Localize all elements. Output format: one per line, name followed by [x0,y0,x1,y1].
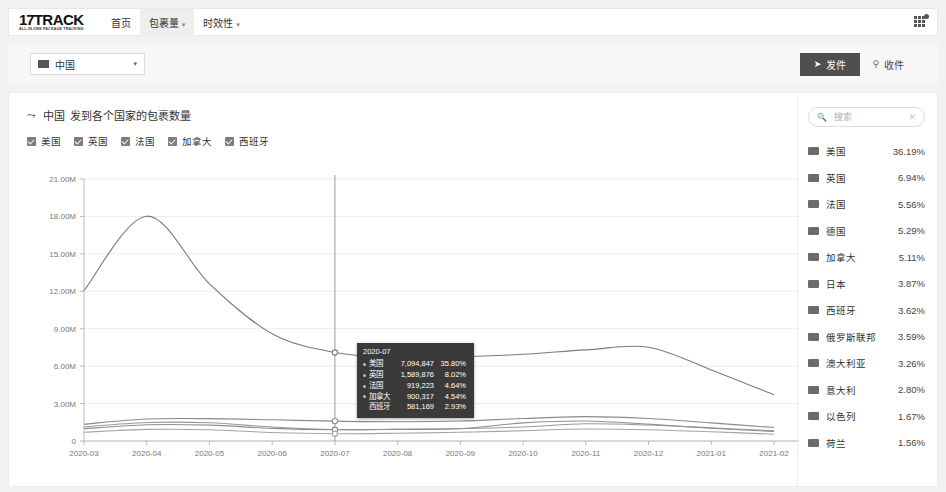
country-rank-row[interactable]: 加拿大5.11% [808,244,925,271]
country-rank-row[interactable]: 意大利2.80% [808,377,925,404]
country-flag-icon [808,412,819,420]
brand-tagline: ALL-IN-ONE PACKAGE TRACKING [19,28,84,32]
country-percent: 5.56% [898,199,925,210]
search-icon: 🔍 [817,113,827,122]
tooltip-series-pct: 4.54% [434,392,466,403]
country-rank-row[interactable]: 俄罗斯联邦3.59% [808,324,925,351]
chart-tooltip: 2020-07 美国7,094,84735.80%英国1,589,8768.02… [357,343,474,418]
country-flag-icon [808,227,819,235]
tooltip-series-name: 加拿大 [369,392,394,403]
country-name: 西班牙 [826,303,898,317]
country-percent: 1.67% [898,411,925,422]
nav-item-timeliness[interactable]: 时效性▾ [194,9,249,36]
y-tick-label: 0 [72,437,77,446]
grid-apps-icon[interactable] [914,16,927,29]
x-tick-label: 2021-01 [697,449,727,458]
location-pin-icon: ⚲ [872,59,879,69]
country-rank-row[interactable]: 澳大利亚3.26% [808,350,925,377]
send-arrow-icon: ➤ [814,59,822,69]
series-dot-icon [363,374,366,377]
x-tick-label: 2020-07 [320,449,350,458]
country-flag-icon [808,280,819,288]
series-point-marker [332,419,337,424]
nav-item-package-volume-label: 包裹量 [149,18,179,29]
country-flag-icon [808,174,819,182]
tooltip-rows: 美国7,094,84735.80%英国1,589,8768.02%法国919,2… [363,359,469,413]
legend-checkbox-es[interactable]: 西班牙 [225,134,269,148]
country-percent: 6.94% [898,172,925,183]
line-chart-plot[interactable]: 03.00M6.00M9.00M12.00M15.00M18.00M21.00M… [9,171,799,471]
legend-checkbox-ca[interactable]: 加拿大 [168,134,212,148]
checkbox-icon [74,137,83,146]
country-flag-icon [808,386,819,394]
legend-label: 加拿大 [182,134,212,148]
chart-pane: ⤳ 中国 发到各个国家的包裹数量 美国 英国 法国 [9,93,797,486]
chevron-down-icon: ▾ [182,21,186,28]
tooltip-series-value: 581,169 [394,402,434,413]
x-tick-label: 2020-12 [634,449,664,458]
brand-name: 17TRACK [19,12,84,27]
country-rank-row[interactable]: 法国5.56% [808,191,925,218]
country-flag-icon [808,253,819,261]
chevron-down-icon: ▾ [133,60,137,68]
x-tick-label: 2020-10 [508,449,538,458]
country-percent: 3.62% [898,305,925,316]
x-tick-label: 2020-06 [258,449,288,458]
country-ranking-list: 美国36.19%英国6.94%法国5.56%德国5.29%加拿大5.11%日本3… [808,138,925,456]
country-percent: 3.87% [898,278,925,289]
country-select[interactable]: 中国 ▾ [30,53,145,75]
country-name: 日本 [826,277,898,291]
tooltip-row: 美国7,094,84735.80% [363,359,469,370]
search-input[interactable] [832,111,905,123]
series-point-marker [332,350,337,355]
legend-label: 英国 [88,134,108,148]
country-percent: 3.26% [898,358,925,369]
country-percent: 5.29% [898,225,925,236]
series-dot-icon [363,363,366,366]
close-icon[interactable]: ✕ [908,112,916,122]
legend-checkbox-fr[interactable]: 法国 [121,134,155,148]
direction-toggle-group: ➤ 发件 ⚲ 收件 [800,53,916,76]
country-rank-row[interactable]: 日本3.87% [808,271,925,298]
country-rank-row[interactable]: 以色列1.67% [808,403,925,430]
search-box[interactable]: 🔍 ✕ [808,107,925,127]
y-tick-label: 15.00M [49,250,76,259]
country-flag-icon [808,147,819,155]
tooltip-row: 加拿大900,3174.54% [363,392,469,403]
legend-label: 法国 [135,134,155,148]
legend-checkbox-us[interactable]: 美国 [27,134,61,148]
x-tick-label: 2020-04 [132,449,162,458]
brand-logo[interactable]: 17TRACK ALL-IN-ONE PACKAGE TRACKING [19,12,84,32]
y-tick-label: 9.00M [54,325,77,334]
series-point-marker [332,431,337,436]
country-rank-row[interactable]: 英国6.94% [808,165,925,192]
tooltip-row: 英国1,589,8768.02% [363,370,469,381]
chart-card: ⤳ 中国 发到各个国家的包裹数量 美国 英国 法国 [8,92,938,487]
country-rank-row[interactable]: 荷兰1.56% [808,430,925,457]
legend-label: 西班牙 [239,134,269,148]
y-tick-label: 21.00M [49,175,76,184]
x-tick-label: 2020-09 [446,449,476,458]
y-tick-label: 12.00M [49,287,76,296]
country-rank-row[interactable]: 美国36.19% [808,138,925,165]
x-tick-label: 2021-02 [759,449,789,458]
country-name: 英国 [826,171,898,185]
tooltip-date: 2020-07 [363,347,469,358]
nav-item-package-volume[interactable]: 包裹量▾ [140,9,195,36]
cn-flag-icon [38,60,49,68]
tooltip-series-pct: 8.02% [434,370,466,381]
tooltip-series-pct: 2.93% [434,402,466,413]
receive-button[interactable]: ⚲ 收件 [860,53,916,76]
nav-item-home[interactable]: 首页 [102,9,140,36]
country-rank-row[interactable]: 西班牙3.62% [808,297,925,324]
tooltip-series-value: 919,223 [394,381,434,392]
legend-checkbox-uk[interactable]: 英国 [74,134,108,148]
country-name: 澳大利亚 [826,356,898,370]
tooltip-row: 法国919,2234.64% [363,381,469,392]
send-button[interactable]: ➤ 发件 [800,53,861,76]
checkbox-icon [225,137,234,146]
tooltip-series-value: 1,589,876 [394,370,434,381]
checkbox-icon [121,137,130,146]
country-percent: 2.80% [898,384,925,395]
country-rank-row[interactable]: 德国5.29% [808,218,925,245]
